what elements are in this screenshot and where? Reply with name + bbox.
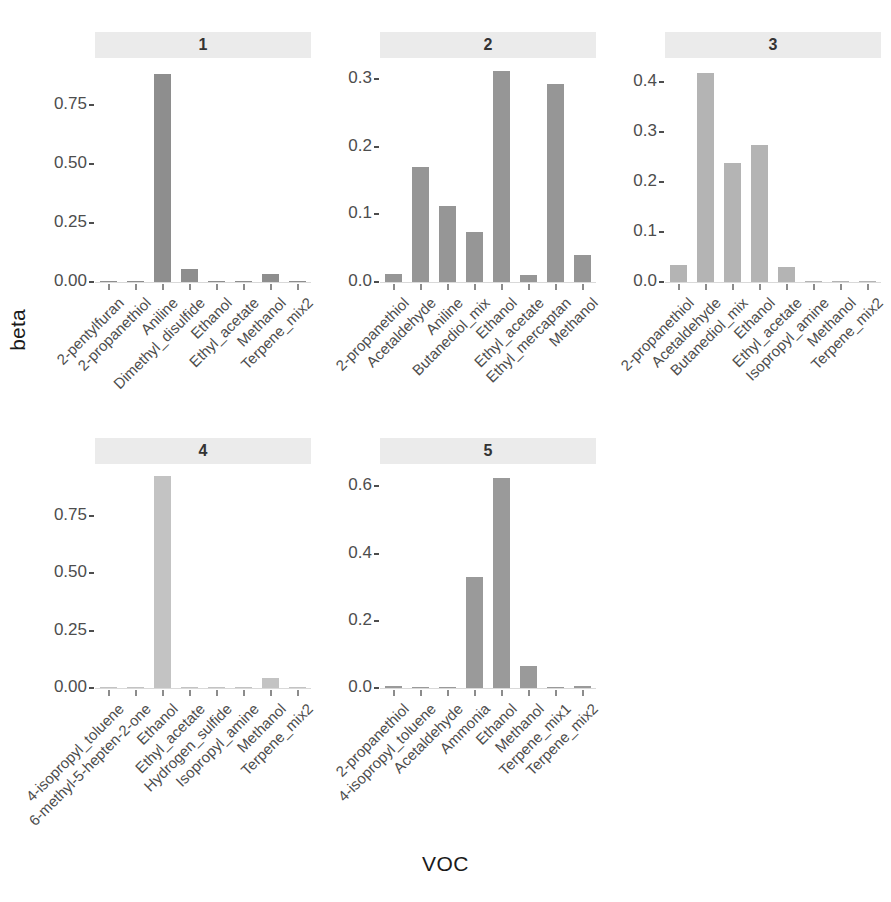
y-tick-mark [659,131,664,133]
facet-strip-5: 5 [380,438,596,464]
bar [385,686,401,688]
x-tick-mark [759,284,761,290]
bar [439,687,455,688]
facet-bar-chart-figure: beta VOC 10.000.250.500.752-pentylfuran2… [0,0,891,902]
y-tick-mark [374,213,379,215]
x-tick-mark [216,690,218,696]
y-tick-mark [89,572,94,574]
y-tick-label: 0.0 [322,271,372,291]
x-tick-mark [108,284,110,290]
x-tick-mark [420,284,422,290]
y-tick-mark [374,620,379,622]
facet-panel-3: 30.00.10.20.30.42-propanethiolAcetaldehy… [665,32,881,422]
x-tick-mark [732,284,734,290]
y-tick-mark [89,281,94,283]
y-tick-label: 0.3 [607,121,657,141]
x-tick-mark [528,690,530,696]
x-tick-mark [135,284,137,290]
bar [181,269,197,282]
bar [289,687,305,688]
facet-strip-label: 5 [484,442,493,460]
x-tick-mark [297,284,299,290]
x-tick-mark [189,690,191,696]
facet-panel-1: 10.000.250.500.752-pentylfuran2-propanet… [95,32,311,422]
facet-strip-4: 4 [95,438,311,464]
y-tick-label: 0.2 [322,610,372,630]
x-axis-baseline [380,688,596,689]
facet-strip-label: 1 [199,36,208,54]
y-tick-label: 0.0 [322,677,372,697]
x-axis-title: VOC [0,852,891,876]
y-tick-mark [89,687,94,689]
bar [778,267,794,282]
y-tick-mark [374,281,379,283]
bar [493,478,509,688]
bar [412,687,428,688]
y-tick-label: 0.4 [322,543,372,563]
y-tick-label: 0.00 [37,271,87,291]
facet-panel-2: 20.00.10.20.32-propanethiolAcetaldehydeA… [380,32,596,422]
bar [832,281,848,282]
x-tick-mark [420,690,422,696]
y-tick-label: 0.25 [37,620,87,640]
bar [181,687,197,688]
y-tick-label: 0.2 [322,136,372,156]
facet-strip-1: 1 [95,32,311,58]
bar [208,687,224,688]
x-tick-mark [447,690,449,696]
x-axis-baseline [665,282,881,283]
bar [385,274,401,282]
x-tick-mark [243,690,245,696]
x-tick-mark [867,284,869,290]
bar [154,476,170,688]
bar [127,281,143,282]
x-tick-mark [474,690,476,696]
bar [670,265,686,283]
x-tick-mark [393,690,395,696]
x-tick-mark [813,284,815,290]
bar [289,281,305,282]
facet-strip-2: 2 [380,32,596,58]
x-tick-mark [270,284,272,290]
y-tick-mark [659,181,664,183]
x-tick-mark [501,284,503,290]
x-tick-mark [216,284,218,290]
y-tick-mark [659,81,664,83]
bar [208,281,224,282]
x-axis-baseline [380,282,596,283]
bar [100,281,116,282]
y-tick-mark [89,515,94,517]
x-tick-mark [705,284,707,290]
bar [262,678,278,688]
facet-strip-3: 3 [665,32,881,58]
y-tick-label: 0.2 [607,171,657,191]
plot-area: 0.00.10.20.3 [380,62,596,282]
y-tick-mark [659,281,664,283]
y-tick-label: 0.0 [607,271,657,291]
bar [574,255,590,282]
x-tick-mark [474,284,476,290]
bar [412,167,428,282]
bar [235,687,251,688]
bar [439,206,455,282]
y-tick-mark [374,687,379,689]
bar [520,666,536,688]
y-tick-label: 0.25 [37,212,87,232]
plot-area: 0.00.10.20.30.4 [665,62,881,282]
y-tick-mark [89,104,94,106]
bar [127,687,143,688]
bar [154,74,170,282]
bar [724,163,740,282]
y-tick-mark [374,485,379,487]
y-tick-label: 0.4 [607,71,657,91]
y-tick-label: 0.00 [37,677,87,697]
y-tick-mark [374,146,379,148]
bar [805,281,821,282]
plot-area: 0.000.250.500.75 [95,468,311,688]
x-tick-mark [447,284,449,290]
y-tick-label: 0.50 [37,562,87,582]
x-tick-mark [582,690,584,696]
bar [574,686,590,688]
y-tick-mark [89,163,94,165]
facet-strip-label: 4 [199,442,208,460]
